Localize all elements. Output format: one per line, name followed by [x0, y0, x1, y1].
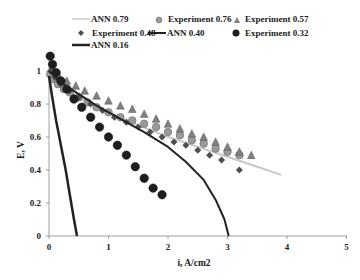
diamond-marker-icon — [236, 167, 243, 174]
legend-item-ann-016: ANN 0.16 — [72, 40, 129, 50]
circle-marker-icon — [140, 174, 148, 182]
circle-marker-icon — [113, 141, 121, 149]
triangle-marker-icon — [234, 17, 240, 23]
triangle-marker-icon — [248, 151, 256, 159]
x-tick-label: 3 — [225, 242, 230, 252]
diamond-marker-icon — [78, 30, 84, 36]
circle-marker-icon — [131, 163, 139, 171]
y-tick-label: 0.8 — [30, 99, 42, 109]
legend-item-exp-076: Experiment 0.76 — [156, 14, 232, 24]
circle-marker-icon — [176, 132, 184, 140]
triangle-marker-icon — [72, 82, 80, 90]
triangle-marker-icon — [140, 110, 148, 118]
circle-marker-icon — [188, 137, 196, 145]
circle-marker-icon — [156, 17, 162, 23]
triangle-marker-icon — [81, 87, 89, 95]
y-tick-label: 0.6 — [30, 132, 42, 142]
triangle-marker-icon — [152, 115, 160, 123]
x-axis-label: i, A/cm2 — [177, 258, 210, 268]
triangle-marker-icon — [164, 120, 172, 128]
y-tick-label: 1 — [37, 66, 42, 76]
circle-marker-icon — [95, 123, 103, 131]
triangle-marker-icon — [212, 138, 220, 146]
circle-marker-icon — [48, 60, 56, 68]
circle-marker-icon — [86, 113, 94, 121]
legend-label: ANN 0.40 — [167, 28, 205, 38]
x-ticks: 012345 — [47, 236, 350, 252]
chart: ANN 0.79 Experiment 0.76 Experiment 0.57… — [0, 0, 360, 280]
legend-item-ann-040: ANN 0.40 — [148, 28, 205, 38]
legend: ANN 0.79 Experiment 0.76 Experiment 0.57… — [72, 14, 309, 50]
circle-marker-icon — [152, 123, 160, 131]
legend-label: ANN 0.16 — [91, 40, 129, 50]
legend-label: Experiment 0.57 — [245, 14, 309, 24]
legend-label: Experiment 0.76 — [168, 14, 232, 24]
y-tick-label: 0.2 — [30, 198, 42, 208]
triangle-marker-icon — [200, 133, 208, 141]
circle-marker-icon — [70, 95, 78, 103]
circle-marker-icon — [200, 140, 208, 148]
circle-marker-icon — [158, 191, 166, 199]
diamond-marker-icon — [218, 157, 225, 164]
legend-item-exp-048: Experiment 0.48 — [78, 28, 156, 38]
circle-marker-icon — [233, 30, 240, 37]
triangle-marker-icon — [129, 105, 137, 113]
legend-label: ANN 0.79 — [91, 14, 129, 24]
triangle-marker-icon — [117, 102, 125, 110]
y-tick-label: 0.4 — [30, 165, 42, 175]
y-tick-label: 0 — [37, 231, 42, 241]
circle-marker-icon — [149, 184, 157, 192]
circle-marker-icon — [212, 145, 220, 153]
triangle-marker-icon — [105, 97, 113, 105]
legend-label: Experiment 0.32 — [245, 28, 309, 38]
legend-item-exp-057: Experiment 0.57 — [234, 14, 309, 24]
series-experiment-0-32 — [46, 52, 166, 199]
x-tick-label: 2 — [166, 242, 171, 252]
y-axis-label: E, V — [16, 141, 26, 159]
x-tick-label: 0 — [47, 242, 52, 252]
circle-marker-icon — [164, 128, 172, 136]
circle-marker-icon — [78, 103, 86, 111]
y-ticks: 00.20.40.60.81 — [30, 66, 49, 241]
x-tick-label: 4 — [285, 242, 290, 252]
triangle-marker-icon — [176, 125, 184, 133]
circle-marker-icon — [46, 52, 54, 60]
legend-item-exp-032: Experiment 0.32 — [233, 28, 309, 38]
x-tick-label: 1 — [106, 242, 111, 252]
circle-marker-icon — [122, 151, 130, 159]
triangle-marker-icon — [236, 148, 244, 156]
triangle-marker-icon — [224, 143, 232, 151]
x-tick-label: 5 — [344, 242, 349, 252]
triangle-marker-icon — [188, 130, 196, 138]
legend-item-ann-079: ANN 0.79 — [72, 14, 129, 24]
legend-label: Experiment 0.48 — [92, 28, 156, 38]
circle-marker-icon — [104, 133, 112, 141]
circle-marker-icon — [140, 120, 148, 128]
plot-area — [46, 52, 281, 236]
triangle-marker-icon — [93, 92, 101, 100]
series-experiment-0-57 — [48, 64, 255, 159]
